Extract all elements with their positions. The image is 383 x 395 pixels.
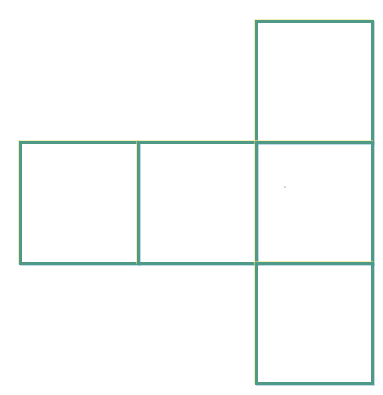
cube-net-diagram xyxy=(0,0,383,395)
square-middle-left xyxy=(19,141,140,265)
square-middle-center xyxy=(137,141,258,265)
scan-artifact xyxy=(284,186,286,188)
square-top xyxy=(255,20,374,144)
square-bottom xyxy=(255,262,374,385)
square-middle-right xyxy=(255,141,374,265)
